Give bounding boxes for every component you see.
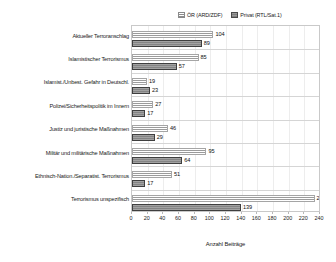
- bar-privat[interactable]: [132, 204, 241, 211]
- bar-oer[interactable]: [132, 78, 147, 85]
- category-label: Polizei/Sicherheitspolitik im Innern: [1, 103, 129, 110]
- bar-value-label: 64: [184, 157, 190, 164]
- x-tick-mark: [178, 212, 179, 214]
- category-axis-labels: Aktueller TerroranschlagIslamistischer T…: [0, 25, 129, 212]
- category-label: Aktueller Terroranschlag: [1, 33, 129, 40]
- category-label: Justiz und juristische Maßnahmen: [1, 126, 129, 133]
- bar-group: 1923: [132, 73, 319, 96]
- x-tick-label: 200: [283, 215, 292, 222]
- x-tick-label: 140: [236, 215, 245, 222]
- bar-privat[interactable]: [132, 157, 182, 164]
- x-tick-mark: [225, 212, 226, 214]
- bar-privat[interactable]: [132, 63, 177, 70]
- bar-group: 8557: [132, 49, 319, 72]
- bar-oer[interactable]: [132, 195, 315, 202]
- x-tick-mark: [194, 212, 195, 214]
- legend-swatch-privat-icon: [231, 12, 238, 18]
- category-label: Militär und militärische Maßnahmen: [1, 150, 129, 157]
- x-tick-mark: [147, 212, 148, 214]
- bar-group: 10489: [132, 26, 319, 49]
- x-tick-mark: [256, 212, 257, 214]
- bar-group: 2717: [132, 96, 319, 119]
- bar-value-label: 19: [149, 78, 155, 85]
- category-label: Ethnisch-Nation./Separatist. Terrorismus: [1, 173, 129, 180]
- x-tick-mark: [131, 212, 132, 214]
- bar-oer[interactable]: [132, 125, 168, 132]
- x-tick-label: 40: [159, 215, 165, 222]
- bar-value-label: 46: [170, 125, 176, 132]
- x-tick-mark: [288, 212, 289, 214]
- x-axis: 020406080100120140160180200220240: [131, 212, 320, 226]
- x-tick-label: 100: [205, 215, 214, 222]
- x-tick-mark: [209, 212, 210, 214]
- bar-group: 233139: [132, 190, 319, 212]
- bar-privat[interactable]: [132, 87, 150, 94]
- bar-value-label: 51: [174, 171, 180, 178]
- bar-chart: ÖR (ARD/ZDF)Privat (RTL/Sat.1) Aktueller…: [0, 0, 336, 262]
- bar-oer[interactable]: [132, 31, 213, 38]
- bar-value-label: 95: [208, 148, 214, 155]
- plot-area: 10489855719232717462995645117233139: [131, 25, 320, 212]
- x-tick-label: 60: [175, 215, 181, 222]
- bar-value-label: 57: [179, 63, 185, 70]
- bar-group: 4629: [132, 120, 319, 143]
- x-tick-label: 220: [299, 215, 308, 222]
- x-tick-label: 240: [315, 215, 324, 222]
- bar-privat[interactable]: [132, 134, 155, 141]
- bar-value-label: 23: [152, 87, 158, 94]
- bar-value-label: 89: [204, 40, 210, 47]
- bar-value-label: 85: [201, 54, 207, 61]
- x-tick-mark: [162, 212, 163, 214]
- legend-swatch-oer-icon: [178, 12, 185, 18]
- x-tick-label: 120: [221, 215, 230, 222]
- x-tick-mark: [319, 212, 320, 214]
- bar-value-label: 29: [157, 134, 163, 141]
- bar-privat[interactable]: [132, 40, 202, 47]
- x-tick-label: 20: [144, 215, 150, 222]
- x-axis-title: Anzahl Beiträge: [131, 240, 320, 248]
- bar-privat[interactable]: [132, 180, 145, 187]
- legend-label: ÖR (ARD/ZDF): [187, 12, 222, 18]
- legend-item-privat[interactable]: Privat (RTL/Sat.1): [231, 12, 281, 18]
- legend-item-oer[interactable]: ÖR (ARD/ZDF): [178, 12, 222, 18]
- x-tick-label: 80: [191, 215, 197, 222]
- bar-group: 5117: [132, 166, 319, 189]
- legend-label: Privat (RTL/Sat.1): [240, 12, 281, 18]
- bar-privat[interactable]: [132, 110, 145, 117]
- bar-oer[interactable]: [132, 101, 153, 108]
- category-label: Islamist./Unbest. Gefahr in Deutschl.: [1, 79, 129, 86]
- bar-value-label: 17: [147, 110, 153, 117]
- bar-oer[interactable]: [132, 148, 206, 155]
- x-tick-label: 0: [130, 215, 133, 222]
- bar-value-label: 139: [243, 204, 252, 211]
- x-tick-mark: [272, 212, 273, 214]
- x-tick-label: 180: [268, 215, 277, 222]
- bar-group: 9564: [132, 143, 319, 166]
- bar-oer[interactable]: [132, 54, 199, 61]
- category-label: Islamistischer Terrorismus: [1, 56, 129, 63]
- x-tick-label: 160: [252, 215, 261, 222]
- bar-value-label: 17: [147, 180, 153, 187]
- x-tick-mark: [303, 212, 304, 214]
- bar-value-label: 233: [317, 195, 320, 202]
- bar-value-label: 27: [155, 101, 161, 108]
- x-tick-mark: [241, 212, 242, 214]
- bar-oer[interactable]: [132, 171, 172, 178]
- category-label: Terrorismus unspezifisch: [1, 196, 129, 203]
- chart-legend: ÖR (ARD/ZDF)Privat (RTL/Sat.1): [178, 9, 282, 21]
- bar-value-label: 104: [215, 31, 224, 38]
